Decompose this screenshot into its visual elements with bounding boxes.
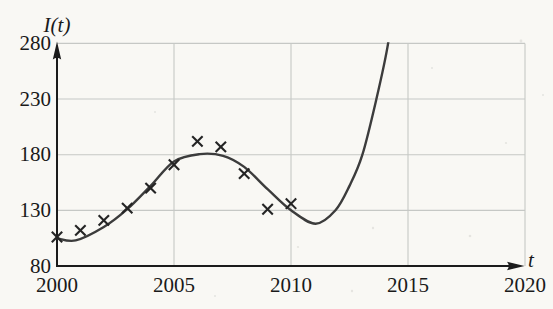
- paper-speckle: [351, 290, 353, 292]
- x-tick-label: 2005: [153, 273, 195, 297]
- paper-speckle: [372, 227, 374, 229]
- data-point-marker: [122, 203, 132, 213]
- y-tick-label: 230: [20, 87, 52, 111]
- paper-speckle: [154, 111, 156, 113]
- x-tick-label: 2000: [36, 273, 78, 297]
- y-tick-label: 130: [20, 198, 52, 222]
- data-point-marker: [192, 136, 202, 146]
- data-point-marker: [99, 215, 109, 225]
- paper-speckle: [469, 235, 472, 238]
- paper-speckle: [431, 67, 433, 69]
- fitted-curve: [57, 0, 393, 241]
- x-axis-arrowhead-icon: [507, 262, 525, 270]
- curve-layer: [57, 0, 393, 241]
- time-series-chart: 8013018023028020002005201020152020 I(t) …: [0, 0, 553, 309]
- x-axis-title: t: [528, 248, 535, 272]
- paper-speckle: [214, 295, 216, 297]
- paper-speckle: [505, 142, 507, 144]
- x-tick-label: 2010: [270, 273, 312, 297]
- scan-speckles: [154, 40, 544, 297]
- grid-layer: [57, 43, 525, 266]
- data-point-marker: [239, 168, 249, 178]
- x-tick-label: 2015: [387, 273, 429, 297]
- paper-speckle: [297, 246, 299, 248]
- tick-layer: 8013018023028020002005201020152020: [20, 31, 547, 297]
- paper-speckle: [542, 94, 544, 96]
- y-axis-arrowhead-icon: [53, 42, 61, 60]
- x-tick-label: 2020: [504, 273, 546, 297]
- paper-speckle: [520, 40, 523, 43]
- figure-container: 8013018023028020002005201020152020 I(t) …: [0, 0, 553, 309]
- data-point-marker: [75, 225, 85, 235]
- y-axis-title: I(t): [43, 13, 71, 37]
- data-point-marker: [216, 142, 226, 152]
- data-point-marker: [262, 204, 272, 214]
- y-tick-label: 180: [20, 142, 52, 166]
- axis-layer: [53, 42, 525, 271]
